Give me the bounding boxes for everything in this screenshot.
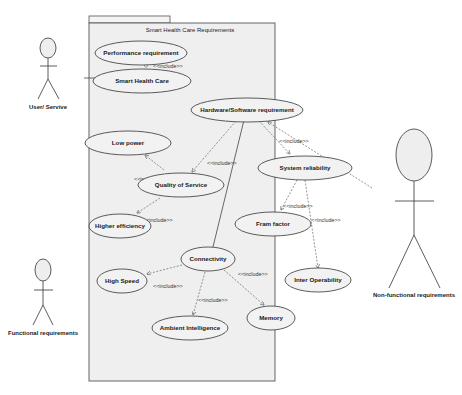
use-case-from-factor: Fram factor bbox=[235, 212, 311, 236]
svg-text:Connectivity: Connectivity bbox=[189, 255, 227, 262]
actor-head-icon bbox=[35, 259, 51, 281]
use-case-connectivity: Connectivity bbox=[181, 247, 235, 271]
use-case-performance-requirement: Performance requirement bbox=[95, 41, 187, 65]
include-label: <<include>> bbox=[283, 203, 313, 209]
svg-text:Ambient Intelligence: Ambient Intelligence bbox=[160, 324, 221, 331]
include-label: <<include>> bbox=[238, 271, 268, 277]
svg-text:Inter Operability: Inter Operability bbox=[294, 276, 342, 283]
svg-text:Low power: Low power bbox=[112, 139, 145, 146]
use-case-hardware-software-requirement: Hardware/Software requirement bbox=[191, 98, 303, 122]
use-case-low-power: Low power bbox=[85, 131, 171, 155]
svg-text:Quality of Service: Quality of Service bbox=[155, 181, 208, 188]
boundary-tab bbox=[89, 16, 170, 23]
actor-label: User/ Servive bbox=[29, 104, 68, 110]
include-label: <<include>> bbox=[279, 138, 309, 144]
svg-text:Hardware/Software requirement: Hardware/Software requirement bbox=[200, 106, 294, 113]
include-label: <<include>> bbox=[311, 217, 341, 223]
use-case-higher-efficiency: Higher efficiency bbox=[89, 214, 151, 238]
svg-text:Smart Health Care: Smart Health Care bbox=[115, 77, 169, 84]
use-case-diagram: Smart Health Care Requirements <<include… bbox=[0, 0, 462, 395]
svg-text:Memory: Memory bbox=[259, 314, 283, 321]
actor-label: Functional requirements bbox=[8, 330, 79, 336]
include-label: <<include>> bbox=[198, 297, 228, 303]
include-label: <<include>> bbox=[153, 283, 183, 289]
svg-text:Performance requirement: Performance requirement bbox=[103, 49, 178, 56]
svg-text:Higher efficiency: Higher efficiency bbox=[95, 222, 145, 229]
use-case-inter-operability: Inter Operability bbox=[285, 268, 351, 292]
actor-head-icon bbox=[40, 38, 56, 58]
use-case-quality-of-service: Quality of Service bbox=[138, 173, 224, 197]
system-title: Smart Health Care Requirements bbox=[146, 27, 235, 33]
actor-head-icon bbox=[396, 129, 432, 181]
actor-user-servive: User/ Servive bbox=[29, 38, 68, 110]
use-case-high-speed: High Speed bbox=[97, 269, 147, 293]
use-case-smart-health-care: Smart Health Care bbox=[93, 69, 191, 93]
svg-text:System reliability: System reliability bbox=[280, 164, 331, 171]
actor-functional-requirements: Functional requirements bbox=[8, 259, 79, 336]
use-case-ambient-intelligence: Ambient Intelligence bbox=[152, 316, 228, 340]
actor-non-functional-requirements: Non-functional requirements bbox=[373, 129, 456, 298]
include-label: <<include>> bbox=[207, 160, 237, 166]
use-case-system-reliability: System reliability bbox=[258, 156, 352, 180]
use-case-memory: Memory bbox=[247, 306, 295, 330]
svg-text:High Speed: High Speed bbox=[105, 277, 139, 284]
actor-label: Non-functional requirements bbox=[373, 292, 456, 298]
svg-text:Fram factor: Fram factor bbox=[256, 220, 291, 227]
